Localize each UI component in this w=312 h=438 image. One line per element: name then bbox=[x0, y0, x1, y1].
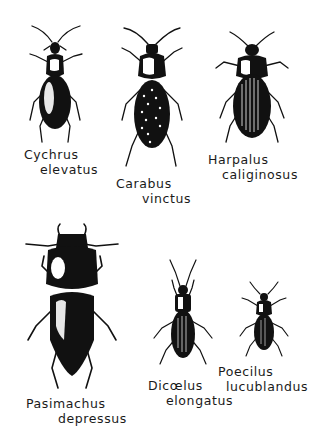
species-text: caliginosus bbox=[208, 167, 298, 182]
genus-text: Carabus bbox=[116, 176, 172, 191]
genus-text: Harpalus bbox=[208, 152, 269, 167]
species-text: lucublandus bbox=[218, 379, 308, 394]
species-text: vinctus bbox=[116, 191, 191, 206]
species-text: elevatus bbox=[24, 162, 98, 177]
beetle-dicaelus-elongatus bbox=[148, 258, 218, 368]
species-text: elongatus bbox=[148, 393, 233, 408]
beetle-poecilus-lucublandus bbox=[236, 282, 292, 358]
label-poecilus-lucublandus: Poecilus lucublandus bbox=[218, 364, 308, 394]
species-text: depressus bbox=[26, 411, 127, 426]
label-harpalus-caliginosus: Harpalus caliginosus bbox=[208, 152, 298, 182]
beetle-carabus-vinctus bbox=[112, 24, 192, 174]
beetle-cychrus-elevatus bbox=[14, 20, 96, 146]
label-cychrus-elevatus: Cychrus elevatus bbox=[24, 147, 98, 177]
genus-text: Cychrus bbox=[24, 147, 79, 162]
genus-text: Dicœlus bbox=[148, 378, 203, 393]
beetle-pasimachus-depressus bbox=[18, 230, 126, 390]
label-pasimachus-depressus: Pasimachus depressus bbox=[26, 396, 127, 426]
genus-text: Poecilus bbox=[218, 364, 273, 379]
genus-text: Pasimachus bbox=[26, 396, 106, 411]
beetle-illustration-plate: Cychrus elevatus Carabus vinctus bbox=[0, 0, 312, 438]
beetle-harpalus-caliginosus bbox=[208, 30, 298, 148]
label-carabus-vinctus: Carabus vinctus bbox=[116, 176, 191, 206]
